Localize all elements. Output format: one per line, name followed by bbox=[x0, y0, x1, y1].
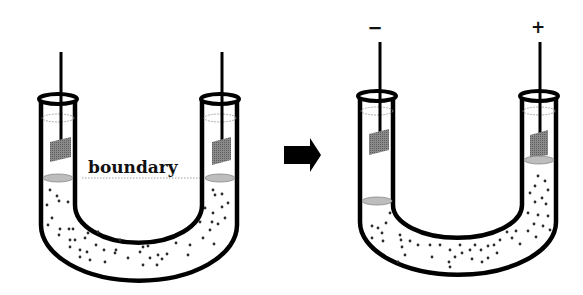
boundary-label: boundary bbox=[88, 157, 179, 177]
boundary-disc-left bbox=[362, 197, 392, 205]
u-tube-outer-wall bbox=[360, 97, 556, 275]
u-tube-inner-wall bbox=[393, 97, 522, 238]
tube-rim-left bbox=[358, 91, 396, 101]
u-tube-before: boundary bbox=[39, 52, 239, 281]
positive-sign: + bbox=[531, 17, 545, 37]
tube-rim-left bbox=[39, 94, 77, 104]
liquid-surface-left bbox=[361, 107, 393, 115]
transition-arrow-icon bbox=[284, 138, 321, 172]
left-electrode-plate bbox=[50, 137, 71, 162]
boundary-disc-left bbox=[43, 174, 73, 182]
negative-sign: − bbox=[367, 17, 382, 38]
u-tube-outer-wall bbox=[41, 100, 237, 281]
liquid-surface-left bbox=[42, 114, 74, 122]
diagram-canvas: boundary bbox=[0, 0, 583, 295]
right-electrode-plate bbox=[212, 137, 231, 165]
positive-electrode-plate bbox=[530, 130, 548, 158]
particles-after bbox=[371, 175, 552, 269]
boundary-disc-right bbox=[524, 156, 554, 164]
boundary-disc-right bbox=[205, 174, 235, 182]
liquid-surface-right bbox=[204, 114, 236, 122]
u-tube-after: − + bbox=[358, 17, 558, 275]
tube-rim-right bbox=[201, 94, 239, 104]
negative-electrode-plate bbox=[369, 129, 389, 155]
